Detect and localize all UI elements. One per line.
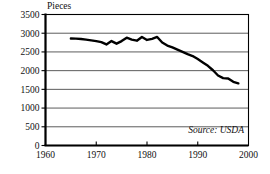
y-tick-label: 3000 (21, 29, 40, 39)
x-tick-label: 1980 (138, 150, 157, 160)
x-tick-label: 1990 (188, 150, 207, 160)
chart-container: 0500100015002000250030003500 19601970198… (0, 0, 270, 174)
y-tick-label: 3500 (21, 10, 40, 20)
y-tick-label: 2500 (21, 47, 40, 57)
y-tick-label: 1000 (21, 103, 40, 113)
y-tick-label: 500 (25, 122, 40, 132)
x-tick-label: 1970 (87, 150, 106, 160)
gridlines (46, 33, 249, 127)
x-tick-label: 1960 (36, 150, 55, 160)
data-series (71, 37, 238, 83)
y-tick-label: 2000 (21, 66, 40, 76)
source-annotation: Source: USDA (188, 125, 244, 135)
y-axis-ticks: 0500100015002000250030003500 (21, 10, 46, 151)
series-line (71, 37, 238, 83)
y-tick-label: 1500 (21, 85, 40, 95)
x-axis-ticks: 19601970198019902000 (36, 142, 258, 160)
y-axis-title: Pieces (47, 1, 72, 11)
x-tick-label: 2000 (239, 150, 258, 160)
line-chart: 0500100015002000250030003500 19601970198… (0, 0, 270, 174)
